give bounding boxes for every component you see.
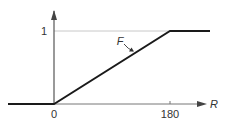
- y-tick-label-1: 1: [41, 25, 47, 37]
- x-axis-label-r: R: [210, 98, 218, 110]
- ramp-function-chart: 1 F 0 180 R: [0, 0, 226, 126]
- x-tick-label-180: 180: [161, 108, 179, 120]
- curve-label-f: F: [117, 35, 125, 47]
- x-axis-arrow-icon: [197, 101, 207, 107]
- y-axis-arrow-icon: [51, 10, 57, 20]
- x-tick-label-0: 0: [51, 108, 57, 120]
- curve-f: [8, 31, 210, 104]
